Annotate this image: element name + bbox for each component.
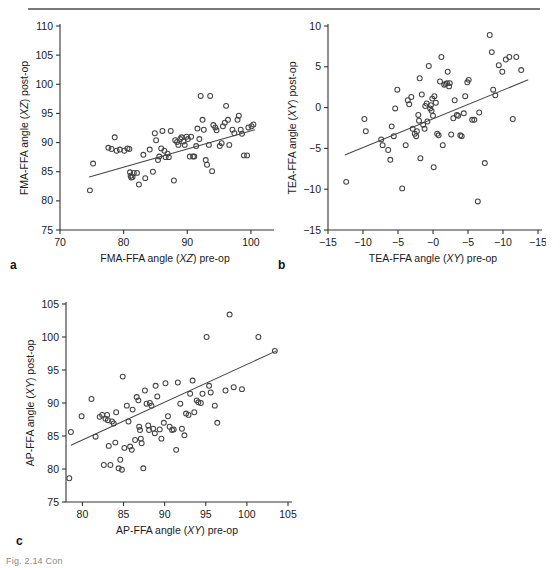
data-point [93,434,98,439]
data-point [344,179,349,184]
data-point [161,420,166,425]
regression-line [345,80,528,155]
data-point [491,87,496,92]
data-point [67,476,72,481]
panel-c-plot: 758085909510010580859095100105AP-FFA ang… [20,292,298,540]
data-point [152,431,157,436]
y-tick-label: 100 [35,78,53,90]
data-point [510,117,515,122]
y-tick-label: −15 [303,224,321,236]
data-point [207,383,212,388]
y-tick-label: 95 [41,107,53,119]
data-point [171,178,176,183]
scatter-panel-b: −15−10−50510−15−10−5−0−5−10−15TEA-FFA an… [282,14,546,266]
panel-b-group: −15−10−50510−15−10−5−0−5−10−15TEA-FFA an… [286,20,546,264]
data-points [344,33,524,204]
data-point [188,391,193,396]
data-point [417,118,422,123]
scatter-panel-c: 758085909510010580859095100105AP-FFA ang… [20,292,298,540]
data-point [68,430,73,435]
x-tick-label: 85 [118,508,130,520]
data-point [461,111,466,116]
data-point [477,110,482,115]
y-tick-label: 0 [315,101,321,113]
data-point [204,335,209,340]
data-point [143,176,148,181]
data-point [433,100,438,105]
data-point [136,182,141,187]
x-tick-label: 95 [200,508,212,520]
data-point [362,117,367,122]
data-point [403,143,408,148]
x-tick-label: −5 [462,236,474,248]
y-tick-label: 75 [41,224,53,236]
panel-a-plot: 7580859095100105110708090100FMA-FFA angl… [14,14,278,266]
data-point [137,424,142,429]
panel-b-plot: −15−10−50510−15−10−5−0−5−10−15TEA-FFA an… [282,14,546,266]
data-point [496,63,501,68]
data-point [439,55,444,60]
x-tick-label: −0 [427,236,439,248]
y-axis-title: TEA-FFA angle (XY) post-op [286,61,298,194]
data-point [212,403,217,408]
data-point [113,440,118,445]
data-point [416,112,421,117]
data-point [431,165,436,170]
data-point [175,380,180,385]
y-tick-label: 5 [315,60,321,72]
y-axis-title: AP-FFA angle (XY) post-op [24,340,36,467]
data-point [135,170,140,175]
x-tick-label: −10 [354,236,372,248]
data-point [124,403,129,408]
data-point [386,148,391,153]
data-point [226,117,231,122]
data-point [380,143,385,148]
data-point [179,426,184,431]
y-tick-label: 90 [41,136,53,148]
x-tick-label: −5 [392,236,404,248]
data-point [174,447,179,452]
y-tick-label: 85 [47,430,59,442]
x-tick-label: 80 [77,508,89,520]
data-point [482,161,487,166]
scatter-panel-a: 7580859095100105110708090100FMA-FFA angl… [14,14,278,266]
data-point [195,126,200,131]
data-point [245,153,250,158]
y-tick-label: −5 [309,142,321,154]
data-point [388,157,393,162]
regression-line [89,130,254,177]
panel-label-c: c [16,534,23,548]
data-point [178,401,183,406]
figure-caption: Fig. 2.14 Con [6,556,266,568]
x-tick-label: 90 [159,508,171,520]
data-point [106,145,111,150]
data-point [120,374,125,379]
data-point [240,387,245,392]
data-point [418,156,423,161]
y-tick-label: 110 [36,20,53,32]
data-point [363,129,368,134]
data-point [440,143,445,148]
data-point [409,95,414,100]
data-point [150,169,155,174]
y-tick-label: 105 [35,49,53,61]
data-point [519,68,524,73]
data-point [106,443,111,448]
data-point [431,113,436,118]
data-point [272,348,277,353]
x-axis-title: FMA-FFA angle (XZ) pre-op [100,252,230,264]
x-tick-label: 100 [238,508,256,520]
x-tick-label: −10 [494,236,512,248]
data-point [112,135,117,140]
data-point [500,69,505,74]
data-point [160,128,165,133]
data-point [200,117,205,122]
data-points [87,93,255,192]
data-point [489,50,494,55]
data-point [122,445,127,450]
panel-c-group: 758085909510010580859095100105AP-FFA ang… [24,298,297,536]
y-axis-title: FMA-FFA angle (XZ) post-op [18,61,30,195]
data-point [395,87,400,92]
x-tick-label: 80 [118,236,130,248]
x-tick-label: −15 [529,236,546,248]
